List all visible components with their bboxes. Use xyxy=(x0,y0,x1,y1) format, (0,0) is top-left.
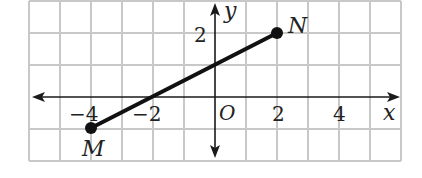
coordinate-plane: −4 −2 2 4 2 O x y N M xyxy=(0,0,422,178)
y-axis-label: y xyxy=(223,0,237,23)
x-axis xyxy=(32,92,400,102)
point-label-n: N xyxy=(287,13,308,38)
tick-label-y-2: 2 xyxy=(194,23,207,47)
origin-label: O xyxy=(219,101,235,125)
tick-label-x-neg4: −4 xyxy=(69,102,98,126)
point-label-m: M xyxy=(81,136,105,161)
tick-label-x-neg2: −2 xyxy=(132,102,161,126)
x-axis-label: x xyxy=(383,100,396,125)
y-axis xyxy=(210,3,220,158)
point-n xyxy=(271,27,283,39)
tick-label-x-4: 4 xyxy=(333,102,346,126)
tick-label-x-2: 2 xyxy=(272,102,285,126)
